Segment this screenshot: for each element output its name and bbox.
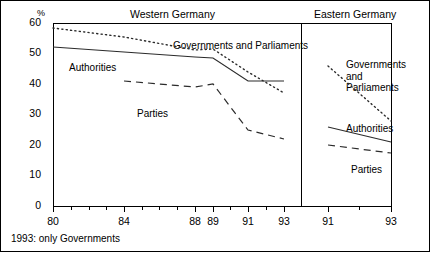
series-line-governments-west bbox=[53, 28, 284, 93]
series-line-parties-east bbox=[328, 145, 391, 153]
series-line-authorities-east bbox=[328, 127, 391, 142]
series-line-authorities-west bbox=[53, 47, 284, 81]
x-axis-ticks-west bbox=[53, 206, 284, 212]
chart-figure: Western Germany Eastern Germany % 60 50 … bbox=[0, 0, 430, 252]
series-line-governments-east bbox=[328, 66, 391, 121]
series-line-parties-west bbox=[124, 81, 284, 139]
plot-canvas bbox=[1, 1, 430, 252]
x-axis-ticks-east bbox=[328, 206, 391, 212]
